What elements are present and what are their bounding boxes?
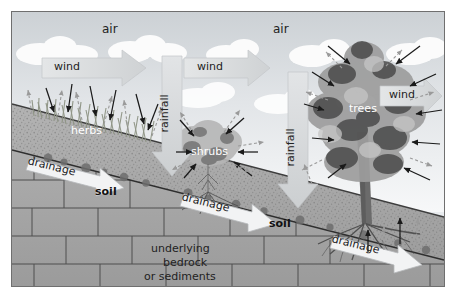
label-shrubs: shrubs xyxy=(191,146,228,157)
label-herbs: herbs xyxy=(71,125,102,136)
label-bedrock-line-3: or sediments xyxy=(144,271,216,282)
label-rainfall-left: rainfall xyxy=(159,94,170,132)
label-wind-left: wind xyxy=(54,61,80,72)
label-air-left: air xyxy=(102,23,118,35)
label-wind-middle: wind xyxy=(197,61,223,72)
label-rainfall-right: rainfall xyxy=(285,128,296,166)
label-air-right: air xyxy=(273,23,289,35)
label-soil-left: soil xyxy=(95,186,117,197)
label-soil-right: soil xyxy=(269,218,291,229)
diagram-frame: air air wind wind wind rainfall rainfall… xyxy=(11,11,445,287)
label-trees: trees xyxy=(349,103,377,114)
label-bedrock-line-2: bedrock xyxy=(163,257,207,268)
label-wind-right: wind xyxy=(389,89,415,100)
label-bedrock-line-1: underlying xyxy=(151,243,210,254)
diagram-canvas: air air wind wind wind rainfall rainfall… xyxy=(0,0,455,304)
